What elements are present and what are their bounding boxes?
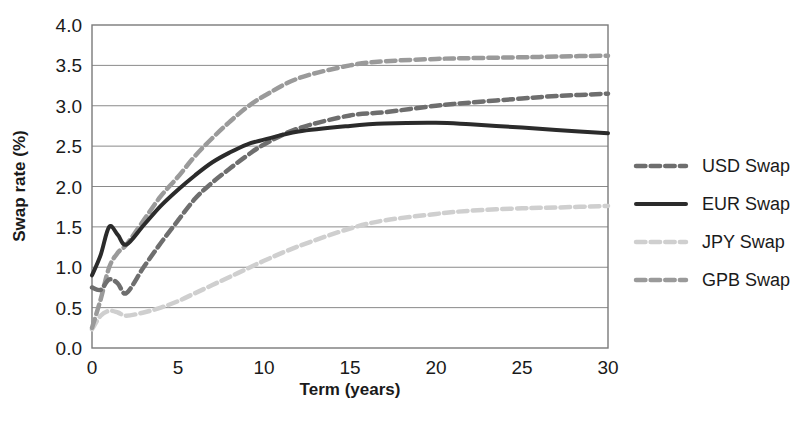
- x-tick-5: 5: [173, 357, 184, 378]
- chart-svg: Swap rate (%) 0.00.51.01.52.02.53.03.54.…: [0, 0, 809, 440]
- y-tick-labels: 0.00.51.01.52.02.53.03.54.0: [56, 15, 82, 359]
- x-tick-30: 30: [597, 357, 618, 378]
- y-axis-label: Swap rate (%): [10, 130, 29, 241]
- y-tick-2.0: 2.0: [56, 177, 82, 198]
- legend-label-gpb-swap: GPB Swap: [702, 270, 790, 290]
- series-line-gpb-swap: [92, 56, 608, 328]
- y-tick-3.5: 3.5: [56, 55, 82, 76]
- legend-label-usd-swap: USD Swap: [702, 156, 790, 176]
- chart-figure: Swap rate (%) 0.00.51.01.52.02.53.03.54.…: [0, 0, 809, 440]
- data-series: [92, 56, 608, 330]
- y-tick-2.5: 2.5: [56, 136, 82, 157]
- x-tick-15: 15: [339, 357, 360, 378]
- x-tick-20: 20: [425, 357, 446, 378]
- y-tick-0.5: 0.5: [56, 298, 82, 319]
- series-line-eur-swap: [92, 123, 608, 276]
- legend-label-jpy-swap: JPY Swap: [702, 232, 785, 252]
- y-tick-1.0: 1.0: [56, 257, 82, 278]
- legend-label-eur-swap: EUR Swap: [702, 194, 790, 214]
- y-axis-label-group: Swap rate (%): [10, 130, 29, 241]
- series-line-usd-swap: [92, 94, 608, 294]
- x-tick-labels: 051015202530: [87, 357, 619, 378]
- x-tick-25: 25: [511, 357, 532, 378]
- y-tick-3.0: 3.0: [56, 96, 82, 117]
- y-tick-4.0: 4.0: [56, 15, 82, 36]
- x-tick-0: 0: [87, 357, 98, 378]
- y-tick-0.0: 0.0: [56, 338, 82, 359]
- x-axis-label: Term (years): [300, 380, 401, 399]
- chart-legend: USD SwapEUR SwapJPY SwapGPB Swap: [636, 156, 790, 290]
- y-tick-1.5: 1.5: [56, 217, 82, 238]
- x-tick-10: 10: [253, 357, 274, 378]
